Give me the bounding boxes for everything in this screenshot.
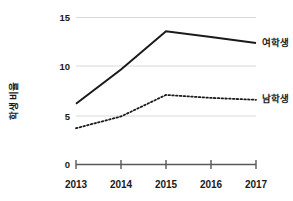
series-label-female: 여학생 xyxy=(262,37,289,48)
x-axis-tick-labels: 2013 2014 2015 2016 2017 xyxy=(65,179,268,190)
y-tick-label-10: 10 xyxy=(59,61,70,72)
y-tick-label-15: 15 xyxy=(59,12,70,23)
x-axis xyxy=(76,160,256,169)
x-tick-label-2016: 2016 xyxy=(200,179,223,190)
series-line-male xyxy=(76,95,256,128)
x-tick-label-2017: 2017 xyxy=(245,179,268,190)
chart-plot-area: 15 10 5 0 2013 2014 2015 2016 2017 여학생 xyxy=(0,0,293,201)
series-label-male: 남학생 xyxy=(262,93,289,104)
x-tick-label-2015: 2015 xyxy=(155,179,178,190)
series-labels: 여학생 남학생 xyxy=(262,37,289,104)
y-tick-label-5: 5 xyxy=(65,111,71,122)
x-tick-label-2013: 2013 xyxy=(65,179,88,190)
y-axis-tick-labels: 15 10 5 0 xyxy=(59,12,70,170)
x-tick-label-2014: 2014 xyxy=(110,179,133,190)
series-line-female xyxy=(76,31,256,104)
line-chart: 15 10 5 0 2013 2014 2015 2016 2017 여학생 xyxy=(0,0,293,201)
y-tick-label-0: 0 xyxy=(65,159,70,170)
